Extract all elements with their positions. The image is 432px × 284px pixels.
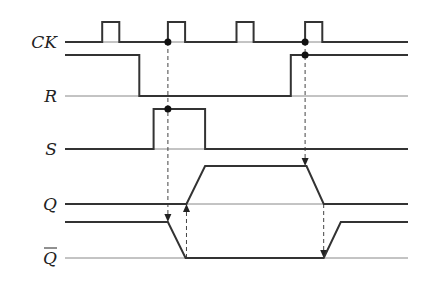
s-waveform <box>65 109 408 149</box>
causal-arrow-head <box>183 204 190 212</box>
timing-diagram: CKRSQQ <box>0 0 432 284</box>
qbar-label: Q <box>43 248 57 268</box>
causal-arrow-head <box>302 158 309 166</box>
causal-arrow-head <box>164 214 171 222</box>
sample-dot-r <box>302 52 309 59</box>
q-waveform <box>65 166 408 204</box>
sample-dot-ck <box>302 39 309 46</box>
s-label: S <box>45 139 57 159</box>
sample-dot-s <box>164 106 171 113</box>
q-label: Q <box>43 194 57 214</box>
sample-dot-ck <box>164 39 171 46</box>
r-label: R <box>43 86 57 106</box>
ck-label: CK <box>31 32 58 52</box>
ck-waveform <box>65 22 408 42</box>
timing-diagram-svg: CKRSQQ <box>0 0 432 284</box>
r-waveform <box>65 55 408 96</box>
qbar-waveform <box>65 222 408 258</box>
